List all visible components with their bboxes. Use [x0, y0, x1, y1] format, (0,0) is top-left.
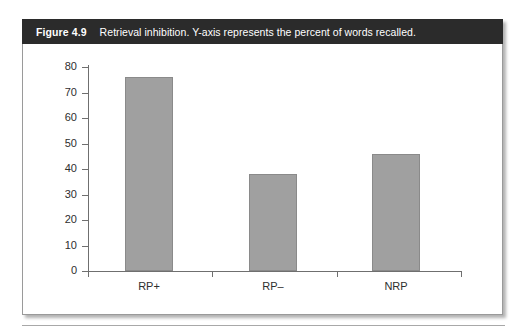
y-axis-tick: 80 [82, 67, 88, 68]
x-axis-tick [212, 272, 213, 277]
x-axis-tick [88, 272, 89, 277]
x-axis-tick [461, 272, 462, 277]
y-axis-tick-label: 70 [65, 86, 77, 98]
y-axis-tick: 70 [82, 93, 88, 94]
y-axis-tick: 60 [82, 118, 88, 119]
x-axis-tick [337, 272, 338, 277]
x-axis-category-label: RP+ [125, 280, 173, 292]
y-axis-tick-label: 20 [65, 213, 77, 225]
y-axis-tick-label: 60 [65, 111, 77, 123]
x-axis-category-label: NRP [372, 280, 420, 292]
y-axis-line [88, 65, 89, 272]
figure-number: Figure 4.9 [22, 26, 87, 38]
plot-frame: 0 10 20 30 40 50 60 70 8 [22, 44, 503, 315]
y-axis-tick: 50 [82, 144, 88, 145]
figure-caption-text: Retrieval inhibition. Y-axis represents … [87, 26, 416, 38]
figure-caption-bar: Figure 4.9 Retrieval inhibition. Y-axis … [22, 19, 503, 44]
y-axis-tick-label: 0 [71, 264, 77, 276]
y-axis-tick-label: 30 [65, 188, 77, 200]
bar-rp-plus [125, 77, 173, 271]
y-axis-tick-label: 80 [65, 60, 77, 72]
page-divider-rule [22, 325, 505, 326]
x-axis-line [88, 271, 462, 272]
y-axis-tick: 10 [82, 246, 88, 247]
y-axis-tick-label: 40 [65, 162, 77, 174]
y-axis-tick: 30 [82, 195, 88, 196]
bar-nrp [372, 154, 420, 271]
x-axis-category-label: RP– [249, 280, 297, 292]
y-axis-tick: 20 [82, 220, 88, 221]
bar-chart: 0 10 20 30 40 50 60 70 8 [23, 44, 502, 313]
y-axis-tick: 40 [82, 169, 88, 170]
figure-panel: Figure 4.9 Retrieval inhibition. Y-axis … [22, 19, 503, 315]
y-axis-tick-label: 50 [65, 137, 77, 149]
bar-rp-minus [249, 174, 297, 271]
y-axis-tick-label: 10 [65, 239, 77, 251]
